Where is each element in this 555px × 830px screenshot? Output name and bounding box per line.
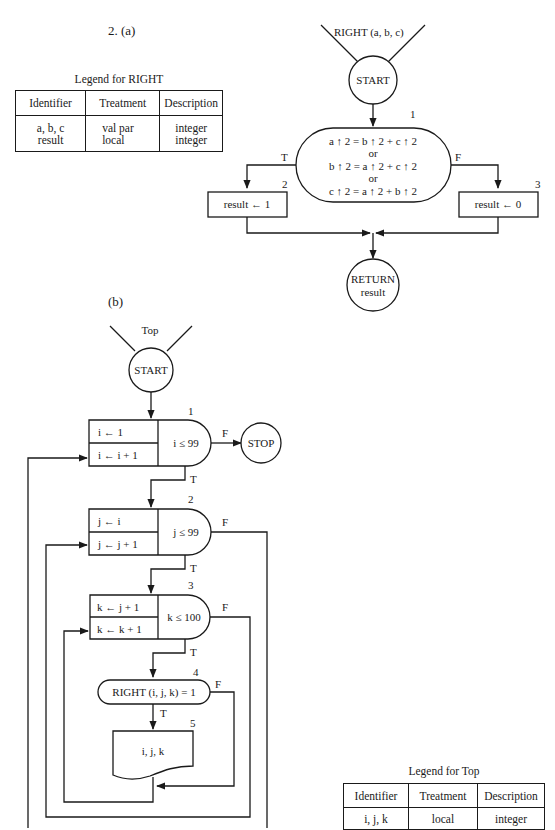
box-result-1-label: result ← 1	[224, 198, 270, 210]
arrow-merge-left	[247, 217, 370, 233]
return-value: result	[361, 286, 385, 298]
loop2-init: j ← i	[97, 515, 121, 527]
arrow-false-branch	[451, 165, 498, 188]
flowchart-right: RIGHT (a, b, c) START 1 a ↑ 2 = b ↑ 2 + …	[208, 25, 541, 311]
box-result-0-label: result ← 0	[475, 198, 522, 210]
output5-text: i, j, k	[142, 745, 165, 757]
arrow-loop1-true	[151, 466, 185, 507]
top-entry-label: Top	[142, 324, 159, 336]
loop1-init: i ← 1	[98, 426, 123, 438]
decision4-text: RIGHT (i, j, k) = 1	[112, 686, 195, 699]
loop3-test: k ≤ 100	[167, 611, 201, 623]
loop2-test: j ≤ 99	[172, 526, 199, 538]
loop3-false-label: F	[222, 601, 228, 613]
arrow-loop1-back	[28, 458, 87, 828]
loop3-number: 3	[188, 579, 194, 591]
loop1-false-label: F	[222, 427, 228, 439]
decision-line-2: or	[368, 147, 378, 159]
right-false-label: F	[455, 151, 461, 163]
decision-line-5: c ↑ 2 = a ↑ 2 + b ↑ 2	[329, 185, 417, 197]
top-entry-line-left	[110, 326, 135, 351]
loop1-true-label: T	[190, 473, 197, 485]
loop1-test: i ≤ 99	[173, 437, 199, 449]
right-start-label: START	[356, 74, 390, 86]
decision-line-4: or	[368, 172, 378, 184]
top-start-label: START	[134, 364, 168, 376]
arrow-true-branch	[247, 165, 296, 188]
return-label: RETURN	[351, 273, 395, 285]
box2-number: 2	[282, 178, 288, 190]
stop-label: STOP	[248, 437, 275, 449]
loop3-incr: k ← k + 1	[97, 623, 142, 635]
top-entry-line-right	[167, 326, 192, 351]
loop1-number: 1	[188, 405, 194, 417]
box3-number: 3	[535, 178, 541, 190]
right-return-terminal	[347, 259, 399, 311]
loop2-incr: j ← j + 1	[97, 538, 138, 550]
arrow-loop3-true	[153, 639, 185, 677]
arrow-merge-right	[376, 217, 498, 233]
right-decision-number: 1	[410, 108, 416, 120]
flowchart-top: Top START 1 i ← 1 i ← i + 1 i ≤ 99 F STO…	[28, 324, 281, 828]
decision-line-1: a ↑ 2 = b ↑ 2 + c ↑ 2	[329, 135, 417, 147]
part-b-label: (b)	[108, 294, 123, 309]
decision4-true-label: T	[160, 707, 167, 719]
loop2-false-label: F	[222, 516, 228, 528]
loop3-true-label: T	[190, 646, 197, 658]
arrow-loop2-true	[151, 555, 185, 593]
output5-number: 5	[190, 717, 196, 729]
decision-line-3: b ↑ 2 = a ↑ 2 + c ↑ 2	[329, 160, 417, 172]
loop2-true-label: T	[190, 562, 197, 574]
loop1-incr: i ← i + 1	[98, 449, 138, 461]
loop3-init: k ← j + 1	[97, 601, 139, 613]
right-true-label: T	[281, 151, 288, 163]
decision4-number: 4	[193, 666, 199, 678]
loop2-number: 2	[188, 493, 194, 505]
decision4-false-label: F	[215, 678, 221, 690]
right-entry-label: RIGHT (a, b, c)	[334, 26, 404, 39]
